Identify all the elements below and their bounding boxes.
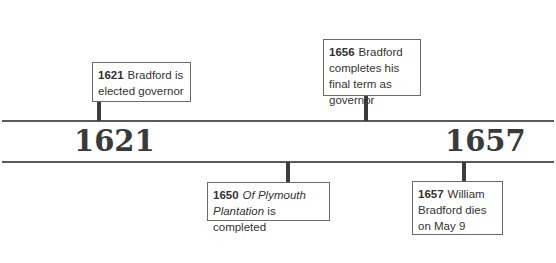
timeline-end-year: 1657 (445, 124, 526, 158)
event-box-1657: 1657William Bradford dies on May 9 (412, 181, 503, 235)
timeline-start-year: 1621 (74, 124, 155, 158)
event-connector-1657 (462, 162, 466, 181)
event-connector-1621 (97, 101, 101, 121)
event-year: 1621 (98, 69, 124, 81)
timeline-bottom-line (2, 161, 554, 163)
event-box-1650: 1650Of Plymouth Plantation is completed (207, 182, 330, 221)
timeline-top-line (2, 120, 554, 122)
event-year: 1656 (329, 46, 355, 58)
event-connector-1650 (286, 162, 290, 182)
event-year: 1650 (213, 189, 239, 201)
event-year: 1657 (418, 188, 444, 200)
event-box-1656: 1656Bradford completes his final term as… (323, 39, 421, 96)
event-box-1621: 1621Bradford is elected governor (92, 62, 191, 102)
